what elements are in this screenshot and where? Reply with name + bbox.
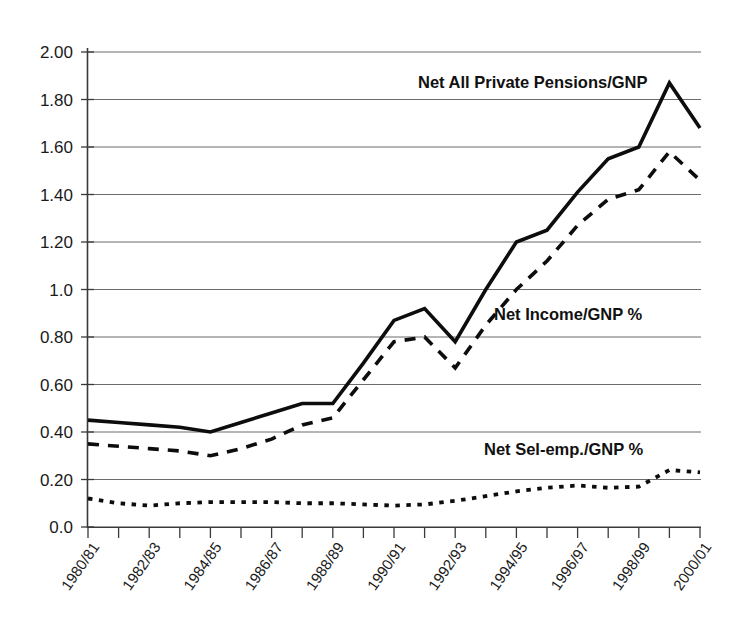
x-axis-tick-label: 1998/99 [608, 539, 653, 593]
x-axis-tick-label: 2000/01 [669, 539, 714, 593]
y-axis-tick-label: 1.40 [40, 186, 73, 205]
y-axis-tick-label: 1.60 [40, 138, 73, 157]
x-axis-ticks-group [88, 527, 700, 538]
series-annotation-1: Net Income/GNP % [494, 305, 643, 323]
series-annotations-group: Net All Private Pensions/GNPNet Income/G… [418, 73, 648, 458]
y-axis-tick-label: 0.20 [40, 471, 73, 490]
y-axis-tick-label: 1.80 [40, 91, 73, 110]
x-axis-tick-label: 1986/87 [241, 539, 286, 593]
y-axis-tick-label: 0.60 [40, 376, 73, 395]
gridlines-group [88, 52, 701, 480]
line-chart: 2.001.801.601.401.201.00.800.600.400.200… [0, 0, 739, 639]
y-axis-tick-label: 1.0 [49, 281, 73, 300]
chart-container: 2.001.801.601.401.201.00.800.600.400.200… [0, 0, 739, 639]
y-axis-tick-label: 0.80 [40, 328, 73, 347]
x-axis-tick-label: 1982/83 [119, 539, 164, 593]
series-line-2 [88, 470, 700, 506]
series-annotation-0: Net All Private Pensions/GNP [418, 73, 648, 91]
y-axis-tick-label: 0.0 [49, 518, 73, 537]
series-line-1 [88, 152, 700, 456]
y-axis-tick-label: 0.40 [40, 423, 73, 442]
y-axis-labels-group: 2.001.801.601.401.201.00.800.600.400.200… [40, 43, 73, 537]
x-axis-tick-label: 1980/81 [57, 539, 102, 593]
x-axis-tick-label: 1996/97 [547, 539, 592, 593]
y-axis-tick-label: 2.00 [40, 43, 73, 62]
series-line-0 [88, 83, 700, 432]
x-axis-tick-label: 1984/85 [180, 539, 225, 593]
x-axis-tick-label: 1992/93 [425, 539, 470, 593]
x-axis-tick-label: 1990/91 [363, 539, 408, 593]
series-annotation-2: Net Sel-emp./GNP % [484, 440, 644, 458]
x-axis-labels-group: 1980/811982/831984/851986/871988/891990/… [57, 539, 714, 593]
y-axis-tick-label: 1.20 [40, 233, 73, 252]
x-axis-tick-label: 1994/95 [486, 539, 531, 593]
x-axis-tick-label: 1988/89 [302, 539, 347, 593]
